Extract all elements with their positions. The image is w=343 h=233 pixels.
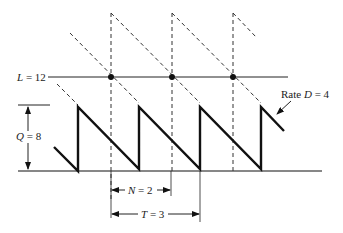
reorder-point-dot	[169, 74, 175, 80]
inventory-diagram: L = 12 Q = 8 Rate D = 4 N = 2 T = 3	[0, 0, 343, 233]
lead-time-label: N = 2	[127, 184, 153, 196]
order-quantity-label: Q = 8	[16, 130, 42, 142]
on-hand-inventory-line	[54, 107, 284, 171]
reorder-point-dot	[230, 74, 236, 80]
cycle-time-label: T = 3	[141, 208, 165, 220]
demand-rate-leader-arrow	[277, 101, 291, 114]
demand-rate-label: Rate D = 4	[281, 88, 330, 100]
reorder-point-dot	[108, 74, 114, 80]
inventory-position-dashed	[57, 13, 261, 200]
reorder-level-label: L = 12	[16, 71, 46, 83]
